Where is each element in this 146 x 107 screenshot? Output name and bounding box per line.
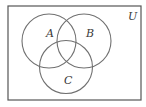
set-c-label: C: [64, 74, 73, 87]
venn-diagram: A B C U: [0, 0, 146, 107]
set-b-label: B: [85, 27, 94, 40]
universe-label: U: [128, 10, 138, 23]
venn-svg: A B C U: [0, 0, 146, 107]
universe-rectangle: [8, 6, 141, 100]
set-a-label: A: [45, 27, 54, 40]
